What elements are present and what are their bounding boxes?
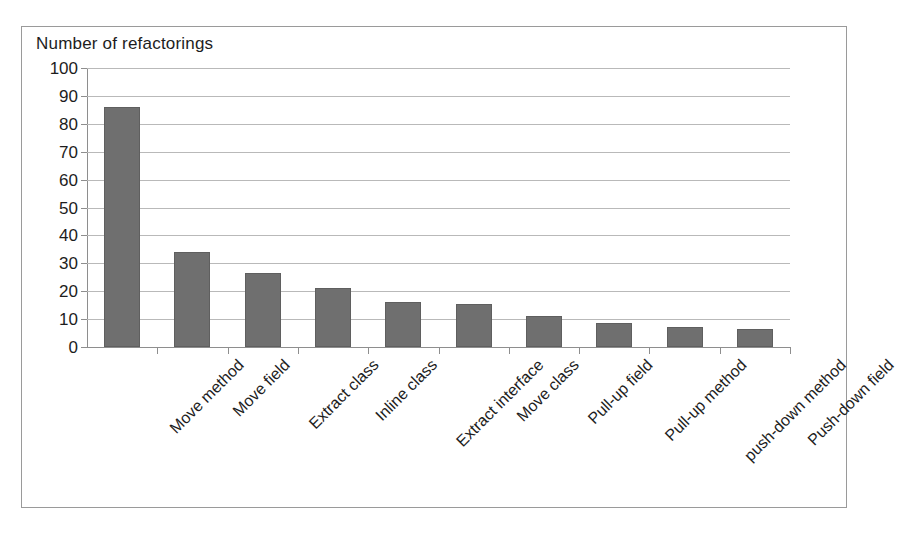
bar	[737, 329, 773, 347]
x-tick-mark	[790, 347, 791, 354]
x-axis-labels: Move methodMove fieldExtract classInline…	[87, 356, 790, 506]
y-tick-label: 50	[59, 199, 78, 216]
x-tick-mark	[368, 347, 369, 354]
bar	[456, 304, 492, 347]
plot-area: 0102030405060708090100	[87, 68, 790, 347]
gridline	[87, 152, 790, 153]
y-tick-mark	[81, 68, 87, 69]
x-axis-label: Pull-up field	[584, 356, 656, 428]
y-tick-mark	[81, 319, 87, 320]
x-tick-mark	[509, 347, 510, 354]
bar	[385, 302, 421, 347]
y-tick-mark	[81, 96, 87, 97]
y-tick-mark	[81, 180, 87, 181]
bar	[174, 252, 210, 347]
y-tick-label: 100	[50, 60, 78, 77]
gridline	[87, 235, 790, 236]
y-tick-label: 20	[59, 283, 78, 300]
gridline	[87, 96, 790, 97]
x-tick-mark	[157, 347, 158, 354]
y-tick-mark	[81, 291, 87, 292]
bar	[104, 107, 140, 347]
x-tick-mark	[649, 347, 650, 354]
gridline	[87, 68, 790, 69]
y-tick-label: 90	[59, 87, 78, 104]
x-axis-label: Move method	[167, 356, 248, 437]
x-axis-label: Pull-up method	[662, 356, 751, 445]
y-tick-label: 40	[59, 227, 78, 244]
y-tick-mark	[81, 347, 87, 348]
y-tick-mark	[81, 124, 87, 125]
x-tick-mark	[298, 347, 299, 354]
x-axis-label: Extract class	[305, 356, 382, 433]
y-tick-mark	[81, 208, 87, 209]
bar	[596, 323, 632, 347]
y-tick-label: 10	[59, 311, 78, 328]
bar	[245, 273, 281, 347]
x-tick-mark	[439, 347, 440, 354]
y-tick-label: 70	[59, 143, 78, 160]
y-tick-label: 0	[69, 339, 78, 356]
gridline	[87, 180, 790, 181]
y-tick-mark	[81, 235, 87, 236]
y-tick-label: 60	[59, 171, 78, 188]
chart-title: Number of refactorings	[36, 34, 213, 54]
x-tick-mark	[720, 347, 721, 354]
y-tick-label: 80	[59, 115, 78, 132]
y-tick-label: 30	[59, 255, 78, 272]
x-axis-label: Inline class	[372, 356, 441, 425]
bar	[667, 327, 703, 347]
x-tick-mark	[579, 347, 580, 354]
y-tick-mark	[81, 263, 87, 264]
bar	[315, 288, 351, 347]
x-tick-mark	[228, 347, 229, 354]
gridline	[87, 124, 790, 125]
gridline	[87, 208, 790, 209]
y-tick-mark	[81, 152, 87, 153]
bar	[526, 316, 562, 347]
